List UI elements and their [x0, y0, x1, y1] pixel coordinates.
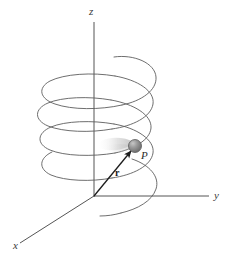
particle-p-group: P: [129, 140, 149, 162]
particle-p-sphere: [129, 140, 142, 153]
x-axis-label: x: [12, 239, 18, 251]
helix-turn-2-back: [42, 74, 122, 109]
helix-tail-end: [100, 213, 121, 216]
vector-diagram-figure: z y x: [0, 0, 232, 262]
helix-turn-5-back: [42, 152, 112, 180]
helix-turn-5-front: [121, 159, 157, 213]
helix-position-vector-diagram: z y x: [0, 0, 232, 262]
position-vector-r-line: [94, 151, 131, 196]
y-axis-label: y: [213, 189, 219, 201]
position-vector-group: r: [94, 151, 131, 196]
z-axis-label: z: [88, 5, 94, 17]
vector-r-label: r: [115, 167, 120, 178]
helix-turn-4-back: [40, 122, 115, 156]
helix-turn-1: [114, 56, 156, 105]
helix-turn-3-back: [38, 98, 113, 132]
particle-p-label: P: [140, 149, 148, 161]
x-axis-line: [20, 196, 94, 243]
